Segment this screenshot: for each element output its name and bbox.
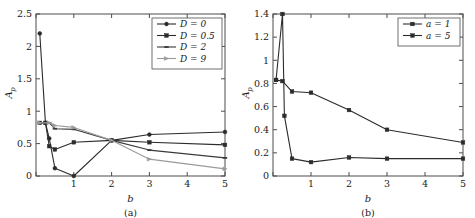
data-point: [147, 149, 151, 151]
y-tick-label: 0.2: [254, 147, 269, 158]
data-point: [290, 157, 294, 161]
y-tick-label: 0: [263, 170, 269, 181]
data-point: [385, 157, 389, 161]
y-tick-label: 1: [263, 55, 269, 66]
y-axis-title: Ap: [3, 87, 17, 100]
data-point: [223, 143, 227, 147]
y-tick-label: 1.4: [254, 8, 269, 19]
y-tick-label: 1.5: [17, 73, 32, 84]
chart-panel-b: 1234500.20.40.60.811.21.4Apb(b)a = 1a = …: [237, 0, 474, 218]
data-point: [165, 34, 169, 38]
data-point: [38, 32, 42, 36]
panel-caption: (b): [361, 207, 375, 218]
data-point: [164, 46, 168, 48]
x-tick-label: 2: [109, 178, 115, 189]
data-point: [47, 144, 51, 148]
data-point: [290, 90, 294, 94]
figure-container: 1234500.511.522.5Apb(a)D = 0D = 0.5D = 2…: [0, 0, 475, 218]
y-tick-label: 1.2: [254, 31, 269, 42]
y-tick-label: 0.6: [254, 101, 269, 112]
y-tick-label: 0.5: [17, 138, 32, 149]
data-point: [461, 157, 465, 161]
data-point: [53, 166, 57, 170]
y-axis-title-subscript: p: [246, 87, 254, 92]
series-line: [40, 123, 225, 158]
data-point: [53, 123, 57, 127]
x-tick-label: 2: [346, 178, 352, 189]
data-point: [461, 141, 465, 145]
data-point: [411, 22, 415, 26]
series-line: [276, 80, 463, 142]
x-tick-label: 4: [184, 178, 190, 189]
data-point: [309, 91, 313, 95]
chart-panel-a: 1234500.511.522.5Apb(a)D = 0D = 0.5D = 2…: [0, 0, 237, 218]
x-tick-label: 1: [71, 178, 77, 189]
y-axis-title: Ap: [240, 87, 254, 100]
legend-label: D = 2: [179, 42, 206, 52]
data-point: [53, 128, 57, 130]
x-tick-label: 5: [222, 178, 228, 189]
x-tick-label: 4: [422, 178, 428, 189]
data-point: [347, 156, 351, 160]
data-point: [274, 78, 278, 82]
legend-label: a = 5: [426, 31, 451, 41]
x-axis-title: b: [127, 193, 133, 204]
y-axis-title-subscript: p: [9, 87, 17, 92]
data-point: [165, 22, 169, 26]
legend-label: D = 0: [179, 19, 206, 29]
x-tick-label: 3: [146, 178, 152, 189]
data-point: [223, 157, 227, 159]
data-point: [411, 34, 415, 38]
y-tick-label: 0: [26, 170, 32, 181]
data-point: [72, 174, 76, 178]
legend-label: D = 0.5: [179, 31, 215, 41]
chart-svg-a: 1234500.511.522.5Apb(a)D = 0D = 0.5D = 2…: [0, 0, 237, 218]
y-tick-label: 0.8: [254, 78, 269, 89]
chart-svg-b: 1234500.20.40.60.811.21.4Apb(b)a = 1a = …: [237, 0, 475, 218]
y-tick-label: 1: [26, 106, 32, 117]
data-point: [53, 148, 57, 152]
legend-label: a = 1: [426, 19, 450, 29]
x-tick-label: 3: [384, 178, 390, 189]
y-tick-label: 2.5: [17, 8, 32, 19]
data-point: [283, 114, 287, 118]
x-axis-title: b: [365, 193, 371, 204]
data-point: [385, 128, 389, 132]
data-point: [347, 108, 351, 112]
x-tick-label: 1: [308, 178, 314, 189]
series-2: [38, 122, 228, 159]
x-tick-label: 5: [460, 178, 466, 189]
data-point: [148, 141, 152, 145]
data-point: [281, 12, 285, 16]
legend-label: D = 9: [179, 54, 206, 64]
data-point: [72, 141, 76, 145]
series-0: [274, 78, 465, 144]
data-point: [309, 160, 313, 164]
y-tick-label: 2: [26, 41, 32, 52]
data-point: [147, 157, 151, 161]
y-tick-label: 0.4: [254, 124, 269, 135]
data-point: [148, 133, 152, 137]
data-point: [223, 130, 227, 134]
panel-caption: (a): [124, 207, 137, 218]
series-1: [38, 121, 227, 151]
